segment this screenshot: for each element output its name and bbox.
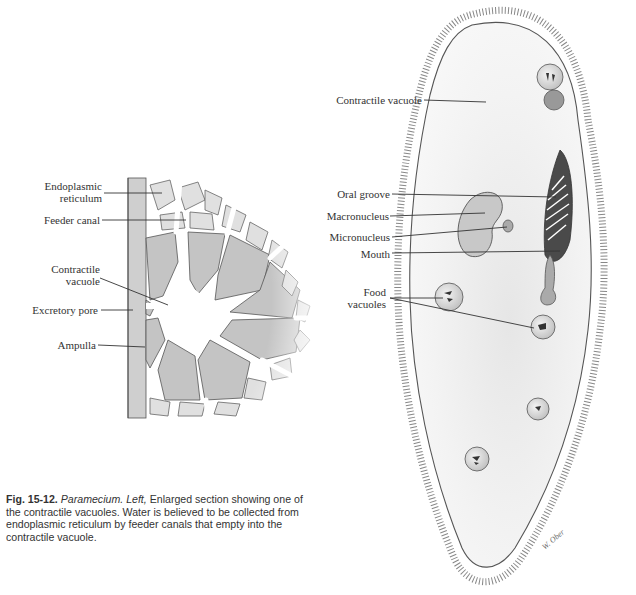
- label-line: reticulum: [20, 192, 102, 204]
- label-line: Food: [330, 286, 386, 298]
- label-contractile-vacuole: Contractile vacuole: [300, 94, 422, 106]
- label-endoplasmic-reticulum: Endoplasmic reticulum: [20, 180, 102, 204]
- paramecium-cell: [398, 10, 604, 581]
- label-line: Contractile: [20, 263, 100, 275]
- label-food-vacuoles: Food vacuoles: [330, 286, 386, 310]
- label-line: Endoplasmic: [20, 180, 102, 192]
- label-macronucleus: Macronucleus: [300, 210, 389, 222]
- label-feeder-canal: Feeder canal: [20, 214, 100, 226]
- label-excretory-pore: Excretory pore: [6, 304, 98, 316]
- figure-caption: Fig. 15-12. Paramecium. Left, Enlarged s…: [6, 493, 311, 543]
- label-contractile-vacuole-left: Contractile vacuole: [20, 263, 100, 287]
- figure-qualifier: Left,: [126, 493, 147, 505]
- label-mouth: Mouth: [300, 248, 390, 260]
- label-line: vacuole: [20, 275, 100, 287]
- label-micronucleus: Micronucleus: [300, 231, 390, 243]
- label-oral-groove: Oral groove: [300, 188, 390, 200]
- label-line: vacuoles: [330, 298, 386, 310]
- figure-number: Fig. 15-12.: [6, 493, 58, 505]
- label-ampulla: Ampulla: [20, 339, 96, 351]
- figure-subject: Paramecium.: [61, 493, 123, 505]
